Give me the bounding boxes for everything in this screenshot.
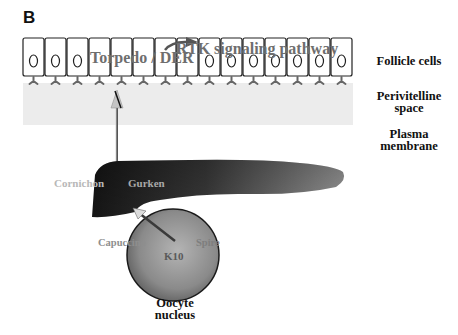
plasma-membrane-line2: membrane	[360, 140, 458, 152]
perivitelline-space-label: Perivitelline space	[360, 90, 458, 114]
k10-label: K10	[164, 250, 184, 262]
cornichon-label: Cornichon	[54, 177, 104, 189]
plasma-membrane-label: Plasma membrane	[360, 128, 458, 152]
rtk-pathway-label: RTK signaling pathway	[176, 40, 338, 58]
spire-label: Spire	[196, 237, 220, 248]
gurken-signaling-diagram: B	[0, 0, 458, 335]
oocyte-nucleus-label: Oocyte nucleus	[140, 297, 210, 321]
perivitelline-band	[23, 83, 353, 125]
oocyte-nucleus-line2: nucleus	[140, 309, 210, 321]
gurken-label: Gurken	[128, 177, 165, 189]
follicle-cells-label: Follicle cells	[364, 55, 454, 67]
capuccino-label: Capuccino	[98, 237, 146, 248]
perivitelline-line2: space	[360, 102, 458, 114]
receptor-icons	[30, 77, 346, 84]
